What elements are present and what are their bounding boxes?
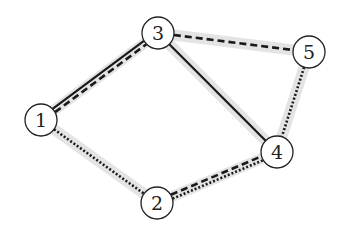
edge-1-3-dashed [55,44,146,112]
edge-highlights [54,35,304,197]
node-label: 4 [271,141,283,163]
node-2: 2 [141,187,173,219]
edge-highlight-1-3 [54,43,145,111]
edge-2-4-dashed [171,156,262,194]
node-1: 1 [25,104,57,136]
edge-highlight-2-4 [172,158,263,196]
node-3: 3 [142,17,174,49]
node-label: 1 [35,109,47,131]
node-label: 5 [303,41,315,63]
edge-1-3-solid [53,41,144,109]
node-4: 4 [261,136,293,168]
node-label: 2 [151,192,163,214]
graph-diagram: 12345 [0,0,350,235]
node-5: 5 [293,36,325,68]
node-label: 3 [152,22,164,44]
edge-3-4-solid [169,44,265,140]
